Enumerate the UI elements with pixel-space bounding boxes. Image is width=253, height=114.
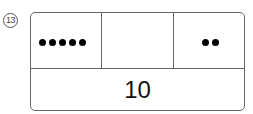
right-cell — [174, 13, 244, 69]
left-cell — [31, 13, 102, 69]
dots-two — [202, 39, 219, 46]
dot — [39, 39, 46, 46]
problem-number: 13 — [3, 13, 18, 28]
middle-cell-blank[interactable] — [102, 13, 174, 69]
dot — [59, 39, 66, 46]
dot — [212, 39, 219, 46]
number-bond-box: 10 — [30, 12, 245, 111]
dot — [69, 39, 76, 46]
total-value: 10 — [124, 76, 151, 104]
dots-five — [39, 39, 86, 46]
dot — [49, 39, 56, 46]
dot — [79, 39, 86, 46]
total-cell: 10 — [31, 69, 244, 110]
dot — [202, 39, 209, 46]
